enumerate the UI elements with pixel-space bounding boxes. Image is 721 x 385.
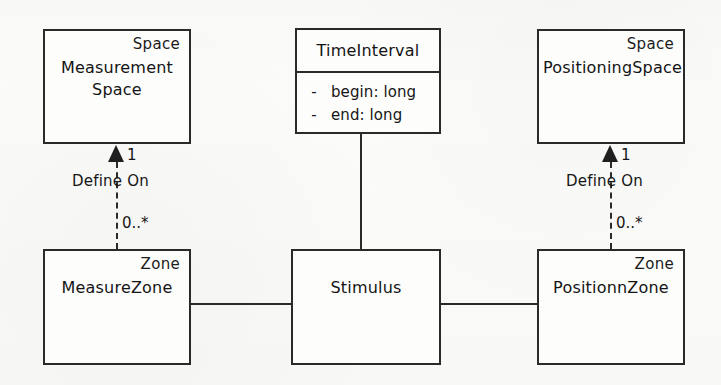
class-stereotype-measurement-space: Space — [133, 35, 180, 53]
class-box-time-interval[interactable]: TimeInterval - begin: long - end: long — [295, 28, 441, 134]
attribute-row: - begin: long — [297, 81, 439, 104]
attribute-visibility: - — [297, 104, 331, 127]
attribute-signature: end: long — [331, 104, 402, 127]
multiplicity-source-left: 0..* — [122, 214, 149, 232]
class-name-positionn-zone: PositionnZone — [539, 277, 683, 299]
association-line-timeinterval-stimulus — [360, 133, 362, 250]
class-name-stimulus: Stimulus — [293, 277, 439, 299]
dependency-arrowhead-left — [108, 145, 124, 162]
class-attributes-time-interval: - begin: long - end: long — [297, 71, 439, 132]
class-name-time-interval: TimeInterval — [297, 30, 439, 73]
association-line-measurezone-stimulus — [190, 303, 292, 305]
uml-diagram-canvas: Space Measurement Space TimeInterval - b… — [0, 0, 721, 385]
attribute-signature: begin: long — [331, 81, 416, 104]
class-stereotype-measure-zone: Zone — [141, 255, 180, 273]
class-stereotype-positionn-zone: Zone — [635, 255, 674, 273]
relationship-label-right: Define On — [566, 172, 643, 190]
multiplicity-source-right: 0..* — [616, 214, 643, 232]
class-name-measurement-space: Measurement Space — [45, 57, 189, 100]
relationship-label-left: Define On — [72, 172, 149, 190]
multiplicity-target-right: 1 — [621, 146, 631, 164]
class-box-positionn-zone[interactable]: Zone PositionnZone — [537, 249, 685, 365]
class-stereotype-positioning-space: Space — [627, 35, 674, 53]
association-line-stimulus-positionnzone — [440, 303, 538, 305]
multiplicity-target-left: 1 — [127, 146, 137, 164]
dependency-arrowhead-right — [602, 145, 618, 162]
attribute-visibility: - — [297, 81, 331, 104]
class-box-stimulus[interactable]: Stimulus — [291, 249, 441, 365]
class-box-positioning-space[interactable]: Space PositioningSpace — [537, 29, 685, 144]
class-box-measure-zone[interactable]: Zone MeasureZone — [43, 249, 191, 365]
attribute-row: - end: long — [297, 104, 439, 127]
class-name-measure-zone: MeasureZone — [45, 277, 189, 299]
class-name-positioning-space: PositioningSpace — [539, 57, 683, 79]
class-box-measurement-space[interactable]: Space Measurement Space — [43, 29, 191, 144]
